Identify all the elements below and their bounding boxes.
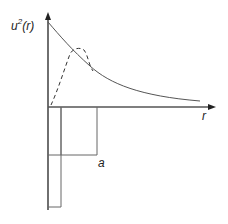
well-width-label: a: [98, 157, 105, 169]
dashed-curve: [51, 48, 93, 105]
x-axis-arrow-icon: [208, 104, 216, 110]
solid-decaying-curve: [48, 22, 200, 101]
y-axis-label-argument: (r): [22, 19, 34, 33]
y-axis-label: u2(r): [11, 20, 34, 32]
y-axis-label-superscript: 2: [18, 17, 22, 26]
well-inner-wall: [48, 107, 61, 207]
y-axis-arrow-icon: [45, 12, 51, 20]
y-axis-label-base: u: [11, 19, 18, 33]
well-outer-box: [61, 107, 97, 155]
x-axis-label: r: [202, 110, 206, 122]
diagram: u2(r) r a: [0, 0, 228, 224]
diagram-canvas: [0, 0, 228, 224]
